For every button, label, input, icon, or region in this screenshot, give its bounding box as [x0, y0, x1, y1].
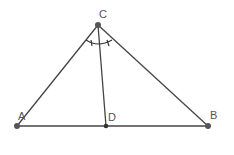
segment-ac — [17, 25, 98, 126]
label-d: D — [108, 111, 116, 123]
point-c — [95, 22, 101, 28]
segment-cd — [98, 25, 106, 126]
angle-tick-right — [107, 40, 109, 46]
angle-tick-left — [91, 40, 92, 46]
point-a — [14, 123, 20, 129]
point-b — [205, 123, 211, 129]
label-c: C — [99, 8, 107, 20]
triangle-diagram: A B C D — [0, 0, 234, 155]
point-d — [104, 124, 109, 129]
label-a: A — [18, 110, 26, 122]
label-b: B — [210, 109, 217, 121]
